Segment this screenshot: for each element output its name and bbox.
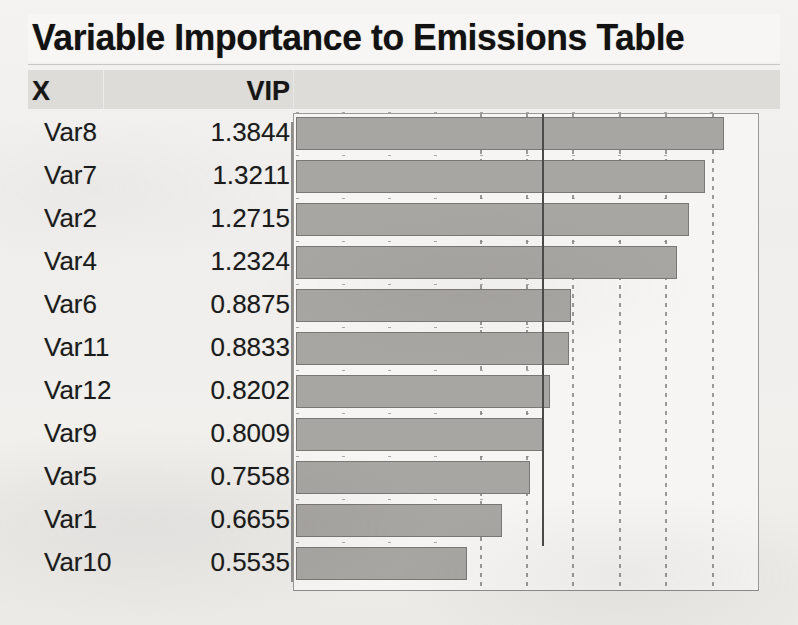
- bar-tick-row: [296, 542, 467, 543]
- row-variable-label: Var1: [44, 503, 97, 535]
- chart-left-axis: [291, 122, 293, 582]
- chart-bar[interactable]: [296, 504, 502, 537]
- bar-tick-row: [296, 241, 677, 242]
- chart-baseline: [294, 590, 758, 591]
- table-body: Var81.3844Var71.3211Var21.2715Var41.2324…: [0, 113, 300, 586]
- scanned-page: Variable Importance to Emissions Table X…: [0, 0, 798, 625]
- table-row[interactable]: Var100.5535: [0, 543, 300, 586]
- chart-bar[interactable]: [296, 418, 544, 451]
- chart-bar[interactable]: [296, 461, 530, 494]
- row-vip-value: 1.2715: [140, 202, 290, 234]
- header-seam-left: [103, 70, 104, 109]
- row-variable-label: Var11: [44, 331, 110, 363]
- column-header-row: [28, 70, 780, 109]
- chart-reference-line: [542, 114, 544, 546]
- bar-tick-row: [296, 370, 550, 371]
- row-vip-value: 0.8009: [140, 417, 290, 449]
- row-variable-label: Var9: [44, 417, 97, 449]
- chart-bar[interactable]: [296, 246, 677, 279]
- column-header-vip[interactable]: VIP: [150, 76, 290, 106]
- row-vip-value: 0.5535: [140, 546, 290, 578]
- table-row[interactable]: Var50.7558: [0, 457, 300, 500]
- title-divider: [28, 64, 780, 65]
- table-row[interactable]: Var71.3211: [0, 156, 300, 199]
- row-vip-value: 0.7558: [140, 460, 290, 492]
- table-row[interactable]: Var110.8833: [0, 328, 300, 371]
- table-row[interactable]: Var10.6655: [0, 500, 300, 543]
- row-vip-value: 1.2324: [140, 245, 290, 277]
- chart-bar[interactable]: [296, 332, 569, 365]
- row-vip-value: 1.3844: [140, 116, 290, 148]
- row-vip-value: 0.8833: [140, 331, 290, 363]
- row-variable-label: Var7: [44, 159, 97, 191]
- row-vip-value: 0.6655: [140, 503, 290, 535]
- chart-bar[interactable]: [296, 289, 571, 322]
- row-variable-label: Var12: [44, 374, 111, 406]
- row-variable-label: Var2: [44, 202, 97, 234]
- vip-bar-chart: [293, 113, 759, 591]
- table-row[interactable]: Var60.8875: [0, 285, 300, 328]
- chart-bar[interactable]: [296, 160, 705, 193]
- bar-tick-row: [296, 112, 724, 113]
- row-variable-label: Var10: [44, 546, 111, 578]
- table-row[interactable]: Var81.3844: [0, 113, 300, 156]
- page-title: Variable Importance to Emissions Table: [32, 16, 765, 60]
- row-vip-value: 0.8202: [140, 374, 290, 406]
- chart-bar[interactable]: [296, 203, 689, 236]
- column-header-x[interactable]: X: [32, 76, 50, 106]
- table-row[interactable]: Var41.2324: [0, 242, 300, 285]
- bar-series: [294, 114, 758, 590]
- chart-bar[interactable]: [296, 117, 724, 150]
- bar-tick-row: [296, 456, 530, 457]
- row-vip-value: 1.3211: [140, 159, 290, 191]
- row-variable-label: Var8: [44, 116, 97, 148]
- bar-tick-row: [296, 413, 544, 414]
- chart-bar[interactable]: [296, 375, 550, 408]
- header-seam-right: [293, 70, 294, 109]
- bar-tick-row: [296, 499, 502, 500]
- bar-tick-row: [296, 284, 571, 285]
- bar-tick-row: [296, 155, 705, 156]
- chart-bar[interactable]: [296, 547, 467, 580]
- bar-tick-row: [296, 198, 689, 199]
- row-variable-label: Var4: [44, 245, 97, 277]
- table-row[interactable]: Var21.2715: [0, 199, 300, 242]
- table-row[interactable]: Var90.8009: [0, 414, 300, 457]
- row-variable-label: Var5: [44, 460, 97, 492]
- table-row[interactable]: Var120.8202: [0, 371, 300, 414]
- bar-tick-row: [296, 327, 569, 328]
- row-variable-label: Var6: [44, 288, 97, 320]
- row-vip-value: 0.8875: [140, 288, 290, 320]
